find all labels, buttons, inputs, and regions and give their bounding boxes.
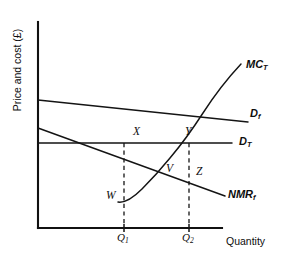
point-label-x: X [133,126,140,138]
curve-label-dt-sub: T [247,140,252,149]
point-label-v: V [166,163,173,175]
net-marginal-revenue-curve-nmrf [38,128,225,196]
point-label-z: Z [196,166,202,178]
curve-label-mct: MCT [246,59,268,70]
curve-label-mct-sub: T [263,63,268,72]
plot-area [0,0,286,255]
x-tick-label-q2-sub: 2 [190,236,194,245]
economics-diagram: Price and cost (£) Quantity MCT Df DT NM… [0,0,286,255]
point-label-w: W [106,190,116,202]
point-label-y: Y [185,126,191,138]
curve-label-df: Df [250,108,260,119]
x-axis-title: Quantity [226,236,265,247]
x-tick-label-q1-sub: 1 [125,236,129,245]
demand-curve-df [38,100,248,122]
x-tick-label-q2-main: Q [182,231,190,243]
curve-label-dt: DT [239,136,252,147]
x-tick-label-q2: Q2 [182,232,194,243]
x-tick-label-q1: Q1 [117,232,129,243]
curve-label-nmrf: NMRf [228,189,256,200]
curve-label-df-main: D [250,107,258,119]
curve-label-nmrf-main: NMR [228,188,253,200]
curve-label-mct-main: MC [246,58,263,70]
curve-label-dt-main: D [239,135,247,147]
curve-label-nmrf-sub: f [253,193,256,202]
x-tick-label-q1-main: Q [117,231,125,243]
y-axis-title: Price and cost (£) [11,10,23,130]
